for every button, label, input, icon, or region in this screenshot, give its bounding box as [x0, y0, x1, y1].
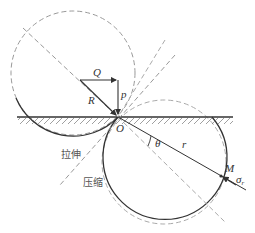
label-r-resultant: R: [87, 94, 95, 106]
r-resultant-arrow: [80, 80, 116, 115]
theta-arc: [148, 136, 151, 146]
contact-stress-diagram: Q p R O θ r M σr 拉伸 压缩: [0, 0, 255, 233]
dashed-line-lower-right: [118, 117, 225, 222]
label-theta: θ: [155, 137, 161, 149]
dashed-line-steep: [118, 40, 165, 117]
label-compression: 压缩: [83, 176, 103, 188]
sigma-arrow: [223, 177, 236, 185]
label-o: O: [116, 122, 124, 134]
point-m: [219, 174, 222, 177]
label-m: M: [224, 162, 235, 174]
label-tension: 拉伸: [61, 148, 81, 160]
label-q: Q: [93, 66, 101, 78]
label-sigma: σr: [236, 173, 244, 187]
sigma-subscript: r: [241, 179, 244, 187]
label-r: r: [182, 138, 187, 150]
label-p: p: [120, 88, 127, 100]
